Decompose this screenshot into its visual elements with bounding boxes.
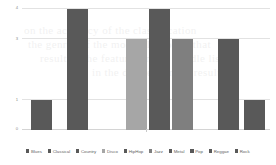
legend-item-disco[interactable]: Disco <box>102 149 118 154</box>
bar-group <box>22 8 270 130</box>
bar-disco[interactable] <box>126 39 147 130</box>
legend-label-hiphop: HipHop <box>129 149 144 154</box>
legend-label-blues: Blues <box>31 149 42 154</box>
legend-label-jazz: Jazz <box>154 149 163 154</box>
bar-blues[interactable] <box>31 100 52 130</box>
legend-label-rock: Rock <box>240 149 250 154</box>
ytick-label-4: 4 <box>0 5 18 10</box>
legend-item-jazz[interactable]: Jazz <box>149 149 163 154</box>
bar-chart: on the accuracy of the classification th… <box>0 0 276 165</box>
legend-label-reggae: Reggae <box>214 149 229 154</box>
legend-label-country: Country <box>81 149 96 154</box>
ytick-label-0: 0 <box>0 126 18 131</box>
legend-item-metal[interactable]: Metal <box>169 149 184 154</box>
legend-item-reggae[interactable]: Reggae <box>209 149 229 154</box>
legend-item-classical[interactable]: Classical <box>48 149 70 154</box>
legend-item-blues[interactable]: Blues <box>26 149 42 154</box>
legend-swatch-icon <box>26 149 29 152</box>
plot-area <box>22 8 270 130</box>
bar-reggae[interactable] <box>218 39 239 130</box>
legend-label-classical: Classical <box>53 149 71 154</box>
ytick-label-3: 3 <box>0 36 18 41</box>
legend-label-disco: Disco <box>107 149 118 154</box>
ytick-label-1: 1 <box>0 97 18 102</box>
legend-item-hiphop[interactable]: HipHop <box>124 149 143 154</box>
legend-item-rock[interactable]: Rock <box>235 149 250 154</box>
chart-legend: Blues Classical Country Disco HipHop Jaz… <box>0 145 276 157</box>
legend-swatch-icon <box>169 149 172 152</box>
legend-swatch-icon <box>149 149 152 152</box>
legend-swatch-icon <box>235 149 238 152</box>
legend-swatch-icon <box>102 149 105 152</box>
legend-swatch-icon <box>190 149 193 152</box>
legend-swatch-icon <box>124 149 127 152</box>
legend-swatch-icon <box>209 149 212 152</box>
legend-item-country[interactable]: Country <box>76 149 96 154</box>
bar-rock[interactable] <box>244 100 265 130</box>
legend-label-metal: Metal <box>174 149 185 154</box>
legend-label-pop: Pop <box>195 149 203 154</box>
bar-jazz[interactable] <box>172 39 193 130</box>
bar-classical[interactable] <box>67 9 88 130</box>
bar-hiphop[interactable] <box>149 9 170 130</box>
legend-swatch-icon <box>76 149 79 152</box>
xaxis-center-tick <box>146 129 147 132</box>
legend-swatch-icon <box>48 149 51 152</box>
legend-item-pop[interactable]: Pop <box>190 149 203 154</box>
